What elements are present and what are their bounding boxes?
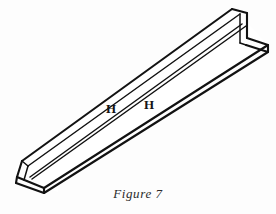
figure-illustration: H H Figure 7 xyxy=(0,0,276,214)
near-flange-outer-thickness xyxy=(16,177,17,183)
flange-top-far-edge xyxy=(32,26,246,179)
web-label-h-left: H xyxy=(106,102,116,115)
web-base-inner-edge xyxy=(30,24,242,177)
angle-beam-drawing xyxy=(0,0,276,214)
web-label-h-right: H xyxy=(144,98,154,111)
figure-caption: Figure 7 xyxy=(0,186,276,202)
